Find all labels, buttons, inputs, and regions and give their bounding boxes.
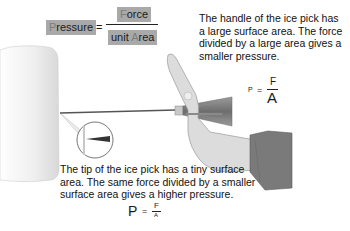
tip-formula-numerator: F [154,201,159,210]
area-rest: rea [139,31,155,43]
formula-unit-area-label: unit Area [108,30,157,45]
handle-formula-numerator: F [270,76,276,87]
formula-fraction-bar [106,24,158,25]
tip-caption: The tip of the ice pick has a tiny surfa… [60,163,265,201]
formula-force-label: Force [117,7,151,22]
unit-prefix: unit [111,31,131,43]
handle-formula-equals: = [257,85,262,95]
area-initial: A [131,31,138,43]
force-rest: orce [127,8,148,20]
formula-equals: = [96,21,102,33]
magnified-tip-inset [60,113,113,158]
pressure-rest: ressure [56,21,93,33]
tip-formula-denominator: A [154,212,158,218]
formula-pressure-label: Pressure [46,20,96,35]
tip-formula-p: P [128,203,137,219]
handle-formula-denominator: A [267,89,277,106]
ice-pick [60,97,232,126]
ice-block [0,46,59,182]
force-initial: F [120,8,127,20]
handle-formula-p: P [248,86,253,93]
handle-caption: The handle of the ice pick has a large s… [199,12,347,62]
tip-formula-equals: = [142,206,147,216]
